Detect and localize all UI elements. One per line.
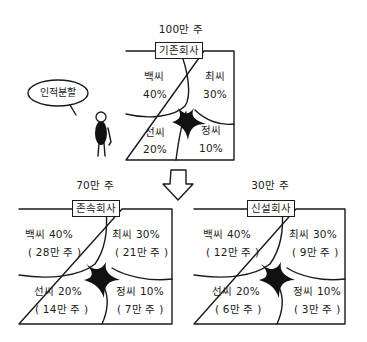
new-cell-baek-line2: ( 12만 주 ): [206, 247, 259, 258]
new-cell-seon-line2: ( 6만 주 ): [215, 304, 262, 315]
original-cell-choi-pct: 30%: [203, 89, 227, 100]
original-cell-baek-pct: 40%: [143, 89, 167, 100]
surviving-cell-jeong-line1: 정씨 10%: [116, 286, 164, 297]
surviving-cell-baek-line2: ( 28만 주 ): [28, 247, 81, 258]
original-cell-baek-name: 백씨: [144, 71, 164, 82]
new-cell-choi-line1: 최씨 30%: [289, 229, 337, 240]
surviving-cell-jeong-line2: ( 7만 주 ): [117, 304, 164, 315]
surviving-cell-choi-line2: ( 21만 주 ): [115, 247, 168, 258]
original-cell-jeong-name: 정씨: [201, 125, 221, 136]
surviving-company-label: 존속회사: [72, 200, 120, 217]
down-arrow-icon: [163, 170, 193, 200]
original-cell-seon-name: 선씨: [145, 127, 165, 138]
original-company-label: 기존회사: [155, 42, 203, 59]
original-cell-seon-pct: 20%: [143, 144, 167, 155]
original-cell-jeong-pct: 10%: [199, 143, 223, 154]
surviving-cell-seon-line2: ( 14만 주 ): [35, 304, 88, 315]
new-cell-seon-line1: 선씨 20%: [212, 286, 260, 297]
new-company-label: 신설회사: [247, 200, 295, 217]
new-cell-jeong-line2: ( 3만 주 ): [294, 304, 341, 315]
new-cell-choi-line2: ( 9만 주 ): [292, 247, 339, 258]
person-body: [95, 121, 107, 145]
surviving-shares-caption: 70만 주: [76, 180, 114, 191]
center-blob-surviving: [84, 262, 120, 298]
new-cell-baek-line1: 백씨 40%: [203, 229, 251, 240]
surviving-cell-baek-line1: 백씨 40%: [25, 229, 73, 240]
person-head: [96, 112, 106, 122]
center-blob-new: [259, 262, 295, 298]
new-cell-jeong-line1: 정씨 10%: [293, 286, 341, 297]
surviving-cell-seon-line1: 선씨 20%: [34, 286, 82, 297]
speech-bubble-text: 인적분할: [40, 88, 77, 98]
original-shares-caption: 100만 주: [159, 24, 204, 35]
original-cell-choi-name: 최씨: [205, 71, 225, 82]
surviving-cell-choi-line1: 최씨 30%: [112, 229, 160, 240]
new-shares-caption: 30만 주: [251, 180, 289, 191]
